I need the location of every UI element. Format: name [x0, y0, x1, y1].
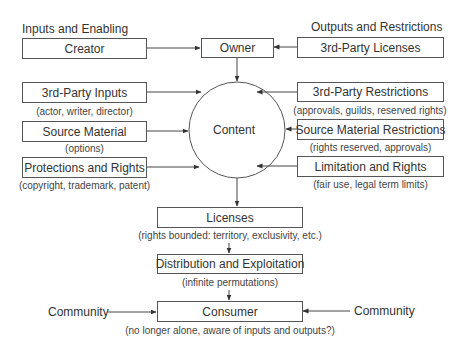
caption-third-party-restrictions: (approvals, guilds, reserved rights): [290, 105, 450, 117]
node-distribution-and-exploitation: Distribution and Exploitation: [157, 254, 303, 274]
node-third-party-licenses-label: 3rd-Party Licenses: [320, 41, 420, 55]
node-content-label: Content: [213, 123, 255, 137]
node-owner-label: Owner: [220, 41, 255, 55]
node-consumer-label: Consumer: [202, 305, 257, 319]
node-third-party-inputs: 3rd-Party Inputs: [22, 82, 147, 103]
node-protections-and-rights-label: Protections and Rights: [24, 161, 145, 175]
node-distribution-and-exploitation-label: Distribution and Exploitation: [156, 257, 305, 271]
caption-source-material-restrictions: (rights reserved, approvals): [297, 142, 444, 154]
node-protections-and-rights: Protections and Rights: [22, 157, 147, 178]
caption-licenses: (rights bounded: territory, exclusivity,…: [130, 230, 330, 242]
caption-third-party-inputs: (actor, writer, director): [22, 106, 147, 118]
node-source-material-label: Source Material: [42, 125, 126, 139]
node-source-material: Source Material: [22, 121, 147, 142]
heading-outputs-and-restrictions: Outputs and Restrictions: [311, 20, 442, 34]
node-licenses-label: Licenses: [206, 211, 253, 225]
rights-flow-diagram: Inputs and Enabling Outputs and Restrict…: [0, 0, 464, 350]
node-limitation-and-rights: Limitation and Rights: [297, 156, 444, 177]
node-limitation-and-rights-label: Limitation and Rights: [314, 160, 426, 174]
node-owner: Owner: [201, 38, 274, 58]
node-community-right: Community: [354, 304, 415, 318]
node-licenses: Licenses: [157, 207, 303, 228]
node-third-party-inputs-label: 3rd-Party Inputs: [42, 86, 127, 100]
heading-inputs-and-enabling: Inputs and Enabling: [22, 22, 128, 36]
node-third-party-licenses: 3rd-Party Licenses: [297, 37, 444, 58]
node-third-party-restrictions-label: 3rd-Party Restrictions: [313, 85, 428, 99]
caption-limitation-and-rights: (fair use, legal term limits): [297, 179, 444, 191]
node-community-left: Community: [48, 305, 109, 319]
caption-source-material: (options): [22, 143, 147, 155]
caption-protections-and-rights: (copyright, trademark, patent): [14, 180, 155, 192]
caption-distribution-and-exploitation: (infinite permutations): [157, 277, 303, 289]
node-source-material-restrictions: Source Material Restrictions: [297, 119, 444, 140]
caption-consumer: (no longer alone, aware of inputs and ou…: [110, 325, 350, 337]
node-consumer: Consumer: [157, 301, 303, 322]
node-third-party-restrictions: 3rd-Party Restrictions: [297, 82, 444, 102]
node-creator-label: Creator: [64, 42, 104, 56]
node-source-material-restrictions-label: Source Material Restrictions: [295, 123, 445, 137]
node-creator: Creator: [22, 38, 147, 59]
